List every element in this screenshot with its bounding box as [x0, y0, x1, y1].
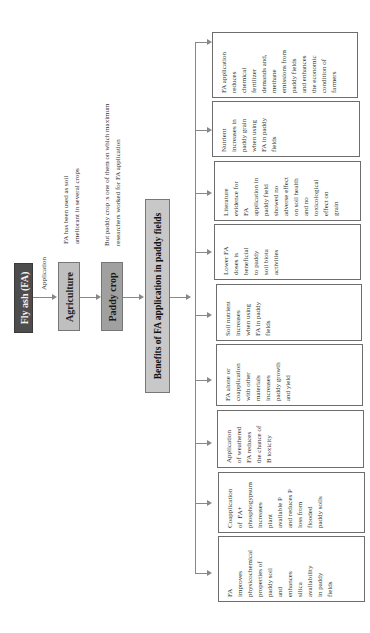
agriculture-note-line2: ameliorant in several crops — [73, 168, 82, 244]
paddy-crop-label: Paddy crop — [107, 272, 118, 321]
arrow-icon — [207, 190, 212, 196]
connector-paddy-benefits — [123, 297, 140, 298]
arrow-icon — [139, 294, 144, 300]
arrow-icon — [207, 377, 212, 383]
paddy-note-line1: But paddy crop :s one of them on which m… — [103, 103, 112, 246]
arrow-icon — [207, 249, 212, 255]
benefit-text: Nutrient increases in paddy grain when u… — [219, 118, 279, 152]
benefit-text: Lower FA doses is beneficial to paddy so… — [221, 247, 281, 275]
paddy-crop-node: Paddy crop — [101, 262, 123, 331]
connector-agriculture-paddy — [80, 297, 97, 298]
arrow-icon — [207, 500, 212, 506]
benefit-text: Coapplication of FA+ phosphogypsum incre… — [225, 482, 325, 528]
arrow-icon — [207, 312, 212, 318]
benefit-text: Application of weathered FA reduces the … — [224, 426, 274, 463]
benefit-text: Literature evidence for FA application i… — [221, 177, 341, 216]
arrow-icon — [207, 440, 212, 446]
benefit-box-phosphogypsum: Coapplication of FA+ phosphogypsum incre… — [218, 472, 365, 533]
benefit-text: FA application reduces chemical fertiliz… — [219, 50, 339, 93]
benefits-node: Benefits of FA application in paddy fiel… — [145, 199, 170, 393]
agriculture-label: Agriculture — [64, 272, 75, 322]
fly-ash-label: Fly ash (FA) — [18, 272, 29, 325]
paddy-note-line2: researchers worked for FA application — [114, 139, 123, 246]
arrow-icon — [186, 294, 191, 300]
benefit-box-growth-yield: FA alone or coapplication with other mat… — [216, 344, 363, 406]
connector-flyash-agriculture — [33, 297, 53, 298]
benefit-text: FA improves physicochemical properties o… — [225, 550, 335, 597]
vertical-trunk-line — [195, 42, 196, 574]
benefit-text: FA alone or coapplication with other mat… — [223, 362, 293, 401]
edge-label-application: Application — [40, 257, 49, 290]
agriculture-note-line1: FA has been used as soil — [62, 176, 71, 244]
benefit-box-soil-nutrient: Soil nutrient increases when using FA in… — [216, 284, 362, 341]
benefit-box-economic: FA application reduces chemical fertiliz… — [212, 32, 358, 98]
benefits-label: Benefits of FA application in paddy fiel… — [153, 213, 163, 380]
benefit-box-literature: Literature evidence for FA application i… — [214, 161, 361, 221]
arrow-icon — [207, 570, 212, 576]
arrow-icon — [52, 294, 57, 300]
benefit-box-boron-toxicity: Application of weathered FA reduces the … — [217, 410, 364, 468]
benefit-box-soil-biota: Lower FA doses is beneficial to paddy so… — [214, 224, 361, 280]
agriculture-node: Agriculture — [58, 262, 80, 331]
fly-ash-node: Fly ash (FA) — [14, 263, 33, 333]
benefit-box-physicochemical: FA improves physicochemical properties o… — [218, 536, 365, 602]
benefit-text: Soil nutrient increases when using FA in… — [223, 301, 273, 336]
benefit-box-grain-nutrient: Nutrient increases in paddy grain when u… — [212, 101, 360, 157]
